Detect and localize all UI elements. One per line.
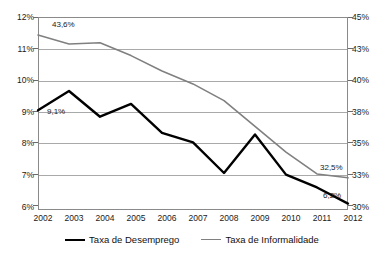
y-axis-right-tick-mark (348, 205, 353, 206)
y-axis-right-tick-label: 40% (352, 76, 382, 85)
chart-legend: Taxa de Desemprego Taxa de Informalidade (0, 235, 384, 245)
legend-item-taxa-de-informalidade[interactable]: Taxa de Informalidade (201, 235, 318, 245)
line-taxa-de-informalidade (38, 35, 348, 178)
line-taxa-de-desemprego (38, 91, 348, 204)
legend-item-taxa-de-desemprego[interactable]: Taxa de Desemprego (65, 235, 179, 245)
y-axis-right-tick-mark (348, 17, 353, 18)
y-axis-left-tick-label: 6% (0, 203, 34, 212)
legend-label: Taxa de Desemprego (89, 235, 179, 245)
data-label-informalidade-2012: 32,5% (320, 164, 343, 172)
series-plot (38, 17, 348, 210)
y-axis-left-tick-label: 12% (0, 13, 34, 22)
y-axis-right-tick-label: 38% (352, 108, 382, 117)
y-axis-right-tick-mark (348, 142, 353, 143)
y-axis-right-tick-mark (348, 174, 353, 175)
y-axis-left-tick-label: 9% (0, 108, 34, 117)
data-label-informalidade-2002: 43,6% (52, 21, 75, 29)
legend-swatch-icon (201, 239, 221, 240)
legend-label: Taxa de Informalidade (225, 235, 318, 245)
x-axis-tick-label: 2012 (333, 214, 373, 223)
chart-container: 12% 11% 10% 9% 8% 7% 6% 45% 43% 40% 38% … (0, 0, 384, 257)
data-label-desemprego-2002: 9,1% (47, 108, 65, 116)
y-axis-right-tick-mark (348, 48, 353, 49)
y-axis-right-tick-label: 33% (352, 171, 382, 180)
y-axis-left-tick-label: 8% (0, 139, 34, 148)
y-axis-left-tick-label: 11% (0, 45, 34, 54)
y-axis-right-tick-label: 43% (352, 45, 382, 54)
data-label-desemprego-2012: 6,2% (323, 192, 341, 200)
y-axis-left-tick-label: 7% (0, 171, 34, 180)
y-axis-left-tick-label: 10% (0, 76, 34, 85)
y-axis-right-tick-mark (348, 111, 353, 112)
y-axis-right-tick-mark (348, 80, 353, 81)
y-axis-right-tick-label: 35% (352, 139, 382, 148)
legend-swatch-icon (65, 239, 85, 241)
y-axis-right-tick-label: 30% (352, 203, 382, 212)
y-axis-right-tick-label: 45% (352, 13, 382, 22)
